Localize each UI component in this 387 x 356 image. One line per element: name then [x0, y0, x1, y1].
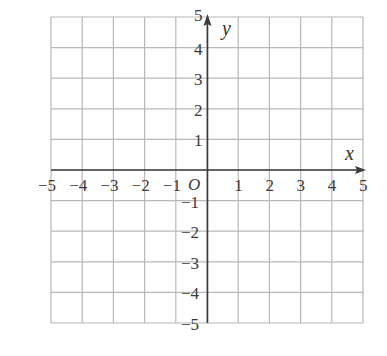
y-axis-label: y: [220, 17, 231, 40]
origin-label: O: [188, 175, 200, 194]
y-tick-label: 3: [194, 70, 203, 89]
y-tick-label: −2: [181, 223, 199, 242]
axes: [51, 14, 366, 323]
y-tick-label: −4: [181, 284, 200, 303]
y-tick-label: 4: [194, 40, 203, 59]
x-axis-label: x: [344, 142, 354, 164]
x-tick-label: 4: [328, 176, 337, 195]
y-tick-label: 1: [194, 131, 203, 150]
y-tick-label: −5: [181, 315, 199, 334]
x-tick-label: −1: [163, 176, 181, 195]
y-tick-label: 5: [194, 6, 203, 25]
x-tick-label: 3: [297, 176, 306, 195]
x-tick-label: −3: [100, 176, 118, 195]
coordinate-plane: −5−4−3−2−112345 12345−1−2−3−4−5 O x y: [0, 0, 387, 356]
x-tick-label: 5: [359, 176, 368, 195]
y-tick-label: −1: [181, 193, 199, 212]
x-tick-labels: −5−4−3−2−112345: [38, 176, 368, 195]
x-tick-label: −5: [38, 176, 56, 195]
x-tick-label: −2: [132, 176, 150, 195]
x-tick-label: 1: [234, 176, 243, 195]
y-tick-label: −3: [181, 254, 199, 273]
x-tick-label: −4: [69, 176, 88, 195]
y-tick-label: 2: [194, 101, 203, 120]
x-tick-label: 2: [265, 176, 274, 195]
